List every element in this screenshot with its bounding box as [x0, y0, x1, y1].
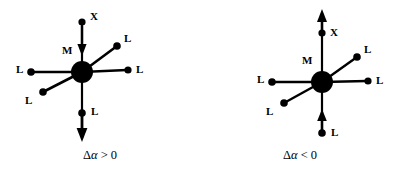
- lower-left-ligand-atom-right: [280, 99, 288, 107]
- diagram-panel-left: X M L L L L L Δα > 0: [0, 0, 200, 178]
- label-bottom-l-right: L: [331, 127, 338, 138]
- lower-left-ligand-atom-left: [39, 88, 47, 96]
- caption-left: Δα > 0: [0, 148, 200, 163]
- caption-right-relation: < 0: [301, 148, 317, 162]
- diagram-panel-right: X M L L L L L Δα < 0: [200, 0, 400, 178]
- caption-right-alpha: α: [291, 148, 298, 162]
- label-upper-right-l-right: L: [364, 44, 371, 55]
- label-lower-left-l-right: L: [266, 106, 273, 117]
- caption-right: Δα < 0: [200, 148, 400, 163]
- label-lower-left-l-left: L: [25, 95, 32, 106]
- right-ligand-atom-left: [124, 66, 131, 73]
- label-metal-center-right: M: [302, 55, 312, 66]
- caption-right-delta: Δ: [283, 148, 291, 162]
- label-left-l-right: L: [257, 74, 264, 85]
- label-x-left: X: [90, 11, 98, 22]
- x-ligand-atom-left: [78, 18, 85, 25]
- metal-center-atom-left: [71, 61, 93, 83]
- left-ligand-atom-left: [27, 68, 35, 76]
- label-upper-right-l-left: L: [124, 33, 131, 44]
- label-left-l-left: L: [16, 64, 23, 75]
- molecule-drawing-right: [200, 0, 400, 150]
- x-displacement-arrowhead-left: [77, 44, 86, 56]
- caption-left-alpha: α: [91, 148, 98, 162]
- x-displacement-arrowhead-right: [317, 9, 327, 22]
- figure-canvas: X M L L L L L Δα > 0: [0, 0, 400, 178]
- metal-center-atom-right: [311, 71, 333, 93]
- caption-left-delta: Δ: [83, 148, 91, 162]
- label-right-l-right: L: [376, 75, 383, 86]
- molecule-drawing-left: [0, 0, 200, 150]
- bottom-l-displacement-arrowhead-right: [317, 109, 327, 121]
- bottom-ligand-atom-left: [78, 109, 86, 117]
- upper-right-ligand-atom-right: [353, 53, 361, 61]
- label-metal-center-left: M: [62, 45, 72, 56]
- bottom-l-displacement-arrowhead-left: [77, 128, 88, 142]
- right-ligand-atom-right: [364, 77, 371, 84]
- caption-left-relation: > 0: [101, 148, 117, 162]
- left-ligand-atom-right: [268, 78, 276, 86]
- upper-right-ligand-atom-left: [113, 42, 121, 50]
- bottom-ligand-atom-right: [318, 129, 326, 137]
- label-x-right: X: [330, 27, 338, 38]
- label-right-l-left: L: [136, 64, 143, 75]
- x-ligand-atom-right: [318, 29, 325, 36]
- label-bottom-l-left: L: [91, 106, 98, 117]
